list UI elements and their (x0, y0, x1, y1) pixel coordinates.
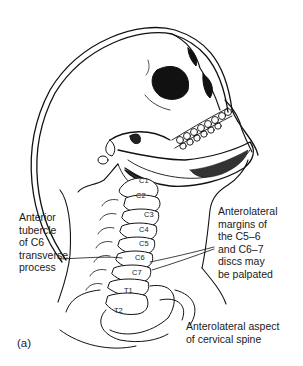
cervical-spine-illustration: C1 C2 C3 C4 C5 C6 C7 T1 T2 Anterior tube… (0, 0, 303, 366)
vertebra-label-c7: C7 (132, 268, 142, 277)
label-anterolateral-margins: Anterolateral margins of the C5–6 and C6… (218, 205, 278, 281)
skull-and-spine-drawing (0, 0, 303, 366)
vertebra-label-c3: C3 (144, 210, 154, 219)
vertebra-label-c2: C2 (136, 191, 146, 200)
orbit (152, 66, 189, 99)
teeth (172, 108, 232, 149)
vertebra-label-t1: T1 (124, 286, 133, 295)
vertebra-label-c5: C5 (139, 239, 149, 248)
vertebra-label-c1: C1 (139, 176, 149, 185)
vertebra-label-c4: C4 (139, 225, 149, 234)
label-anterolateral-aspect: Anterolateral aspect of cervical spine (186, 320, 279, 345)
cervical-vertebrae (86, 178, 160, 315)
label-anterior-tubercle-c6: Anterior tubercle of C6 transverse proce… (19, 211, 68, 274)
panel-label: (a) (17, 337, 31, 350)
vertebra-label-c6: C6 (135, 253, 145, 262)
vertebra-label-t2: T2 (114, 306, 123, 315)
